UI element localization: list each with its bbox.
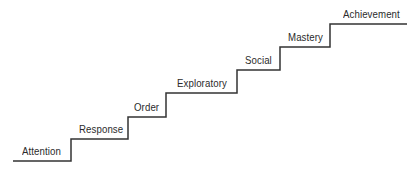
step-label-mastery: Mastery	[288, 31, 323, 43]
staircase-line	[13, 24, 407, 161]
step-label-social: Social	[245, 54, 272, 66]
step-label-attention: Attention	[22, 145, 61, 157]
step-label-achievement: Achievement	[343, 8, 400, 20]
step-label-order: Order	[134, 101, 159, 113]
step-label-exploratory: Exploratory	[177, 77, 227, 89]
step-label-response: Response	[79, 123, 123, 135]
